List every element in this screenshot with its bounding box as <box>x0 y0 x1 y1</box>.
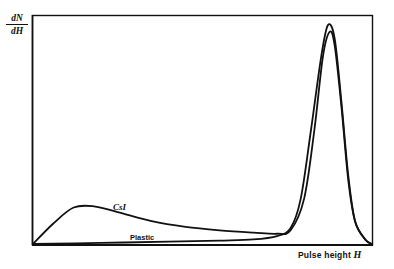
series-label-plastic: Plastic <box>130 233 154 242</box>
curve-plastic <box>33 24 372 244</box>
series-label-csi: CsI <box>113 202 126 212</box>
y-axis-label-denominator: dH <box>6 25 28 36</box>
y-axis-label-numerator: dN <box>6 13 28 25</box>
x-axis-label-variable: H <box>354 249 362 260</box>
x-axis-label: Pulse height H <box>298 249 361 260</box>
y-axis-label: dN dH <box>6 13 28 36</box>
x-axis-label-text: Pulse height <box>298 250 351 260</box>
curve-csi <box>33 31 372 244</box>
spectrum-chart <box>0 0 394 269</box>
